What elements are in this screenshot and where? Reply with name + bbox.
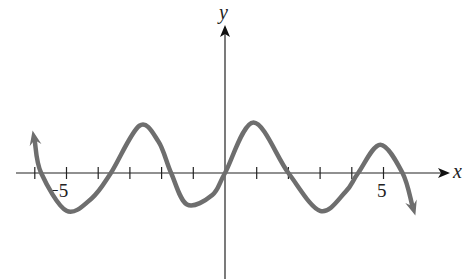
function-graph: −5 5 x y — [0, 0, 468, 279]
x-axis-label: x — [452, 160, 462, 182]
function-curve — [35, 123, 412, 212]
y-axis-label: y — [217, 1, 228, 24]
tick-label-5: 5 — [377, 180, 387, 201]
